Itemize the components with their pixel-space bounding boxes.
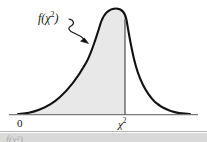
next-figure-band (0, 133, 207, 142)
annotation-arrow-curve (69, 19, 85, 40)
density-function-label: f(χ2) (38, 11, 59, 24)
next-figure-clipped-label: f(χ²) (6, 134, 23, 142)
page-divider-rule (0, 131, 207, 132)
density-label-close: ) (55, 11, 59, 25)
annotation-arrow-head-icon (81, 38, 89, 44)
x-axis-chisq-label: χ2 (118, 118, 126, 130)
density-label-base: f(χ (38, 11, 51, 25)
chisq-label-exponent: 2 (123, 117, 127, 125)
x-axis-origin-label: 0 (17, 118, 23, 129)
chi-square-density-figure: f(χ2) 0 χ2 f(χ²) (0, 0, 207, 142)
chi-square-plot-svg (0, 0, 207, 142)
